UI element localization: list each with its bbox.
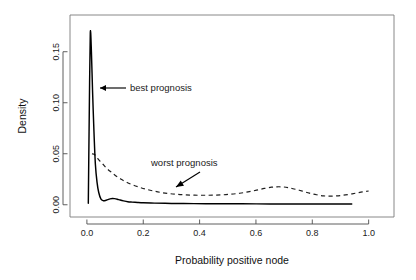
y-tick-label: 0.05 bbox=[51, 145, 61, 163]
x-tick-label: 0.0 bbox=[81, 228, 94, 238]
x-tick-label: 0.6 bbox=[250, 228, 263, 238]
x-tick-label: 0.2 bbox=[137, 228, 150, 238]
y-tick-label: 0.00 bbox=[51, 196, 61, 214]
density-plot-figure: 0.000.050.100.15 Density 0.00.20.40.60.8… bbox=[0, 0, 416, 280]
chart-background bbox=[0, 0, 416, 280]
x-axis-title: Probability positive node bbox=[175, 254, 289, 266]
chart-svg: 0.000.050.100.15 Density 0.00.20.40.60.8… bbox=[0, 0, 416, 280]
y-axis-title: Density bbox=[16, 98, 28, 134]
x-tick-label: 1.0 bbox=[362, 228, 375, 238]
y-tick-label: 0.15 bbox=[51, 43, 61, 61]
x-tick-label: 0.4 bbox=[193, 228, 206, 238]
best-prognosis-label: best prognosis bbox=[130, 82, 192, 93]
x-tick-label: 0.8 bbox=[306, 228, 319, 238]
worst-prognosis-label: worst prognosis bbox=[150, 157, 218, 168]
y-tick-label: 0.10 bbox=[51, 94, 61, 112]
